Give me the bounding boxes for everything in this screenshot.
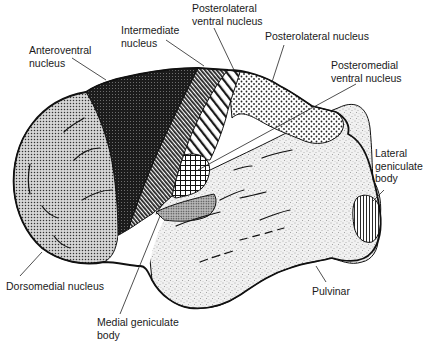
label-pulvinar: Pulvinar	[312, 285, 350, 298]
label-medial-geniculate-body: Medial geniculate body	[97, 316, 179, 341]
label-posterolateral-ventral-nucleus: Posterolateral ventral nucleus	[192, 2, 263, 27]
leader-posterolateral	[272, 45, 284, 82]
region-lateral-geniculate	[353, 195, 381, 242]
leader-posterolateral-ventral	[214, 28, 234, 70]
label-posteromedial-ventral-nucleus: Posteromedial ventral nucleus	[331, 59, 402, 84]
label-dorsomedial-nucleus: Dorsomedial nucleus	[6, 280, 104, 293]
label-anteroventral-nucleus: Anteroventral nucleus	[29, 44, 91, 69]
label-intermediate-nucleus: Intermediate nucleus	[121, 24, 179, 49]
label-lateral-geniculate-body: Lateral geniculate body	[375, 147, 423, 185]
leader-dorsomedial	[20, 252, 42, 276]
region-posterolateral	[228, 72, 343, 144]
leader-pulvinar	[316, 266, 326, 282]
label-posterolateral-nucleus: Posterolateral nucleus	[265, 30, 369, 43]
